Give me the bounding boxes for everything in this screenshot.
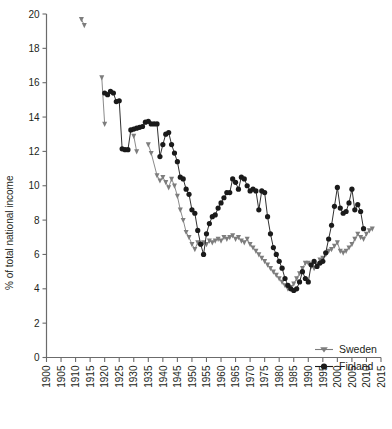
data-point: [169, 177, 174, 182]
data-point: [320, 259, 325, 264]
data-point: [157, 178, 162, 183]
data-point: [125, 147, 130, 152]
data-point: [346, 200, 351, 205]
x-tick-label: 1945: [172, 365, 183, 388]
data-point: [256, 207, 261, 212]
x-tick-label: 1980: [274, 365, 285, 388]
x-axis-ticks: [47, 358, 382, 363]
x-tick-label: 1960: [216, 365, 227, 388]
data-point: [268, 231, 273, 236]
data-point: [361, 237, 366, 242]
data-point: [274, 252, 279, 257]
data-point: [166, 185, 171, 190]
data-point: [181, 218, 186, 223]
y-tick-label: 12: [28, 146, 40, 157]
y-tick-label: 20: [28, 9, 40, 20]
data-point: [300, 269, 305, 274]
data-point: [184, 187, 189, 192]
data-point: [361, 226, 366, 231]
data-point: [297, 279, 302, 284]
data-point: [99, 75, 104, 80]
x-tick-label: 1900: [41, 365, 52, 388]
y-tick-label: 2: [34, 318, 40, 329]
data-point: [149, 151, 154, 156]
data-point: [181, 176, 186, 181]
data-point: [160, 142, 165, 147]
x-tick-label: 1955: [201, 365, 212, 388]
series-finland: [102, 89, 366, 293]
data-point: [111, 90, 116, 95]
income-share-line-chart: 02468101214161820 1900190519101915192019…: [0, 0, 392, 429]
data-point: [154, 121, 159, 126]
data-point: [216, 205, 221, 210]
data-point: [140, 124, 145, 129]
data-point: [186, 192, 191, 197]
data-point: [335, 185, 340, 190]
x-tick-label: 1990: [303, 365, 314, 388]
data-point: [207, 221, 212, 226]
data-point: [294, 286, 299, 291]
x-tick-label: 1975: [259, 365, 270, 388]
data-point: [312, 259, 317, 264]
data-point: [201, 252, 206, 257]
x-tick-label: 1935: [143, 365, 154, 388]
y-axis-tick-labels: 02468101214161820: [28, 9, 40, 364]
data-point: [169, 142, 174, 147]
legend-label-sweden: Sweden: [339, 343, 377, 355]
data-point: [146, 142, 151, 147]
data-point: [262, 190, 267, 195]
data-point: [271, 245, 276, 250]
y-tick-label: 0: [34, 352, 40, 363]
y-tick-label: 6: [34, 249, 40, 260]
data-point: [187, 235, 192, 240]
x-axis-tick-labels: 1900190519101915192019251930193519401945…: [41, 365, 387, 388]
data-point: [242, 176, 247, 181]
data-point: [233, 180, 238, 185]
x-tick-label: 1965: [230, 365, 241, 388]
data-point: [131, 134, 136, 139]
data-point: [221, 195, 226, 200]
data-point: [102, 122, 107, 127]
series-line: [102, 78, 105, 124]
y-tick-label: 4: [34, 283, 40, 294]
data-point: [352, 207, 357, 212]
data-point: [344, 209, 349, 214]
data-point: [192, 247, 197, 252]
data-point: [332, 204, 337, 209]
data-point: [219, 239, 224, 244]
data-point: [326, 236, 331, 241]
series-sweden: [79, 17, 375, 292]
data-point: [204, 231, 209, 236]
x-tick-label: 1950: [187, 365, 198, 388]
data-point: [280, 266, 285, 271]
legend-label-finland: Finland: [339, 360, 374, 372]
x-tick-label: 1915: [85, 365, 96, 388]
x-tick-label: 1925: [114, 365, 125, 388]
x-tick-label: 1910: [70, 365, 81, 388]
data-point: [236, 187, 241, 192]
data-point: [218, 200, 223, 205]
data-point: [178, 208, 183, 213]
data-point: [175, 194, 180, 199]
y-axis-title: % of total national income: [4, 175, 15, 290]
data-point: [282, 276, 287, 281]
data-point: [134, 149, 139, 154]
data-point: [198, 242, 203, 247]
x-tick-label: 2015: [376, 365, 387, 388]
data-point: [79, 17, 84, 22]
legend-item-sweden: Sweden: [315, 343, 377, 355]
data-point: [157, 154, 162, 159]
data-point: [166, 130, 171, 135]
data-point: [329, 223, 334, 228]
data-point: [323, 250, 328, 255]
data-point: [213, 212, 218, 217]
x-tick-label: 1905: [56, 365, 67, 388]
data-point: [277, 259, 282, 264]
chart-container: 02468101214161820 1900190519101915192019…: [0, 0, 392, 429]
data-point: [242, 240, 247, 245]
data-point: [195, 228, 200, 233]
data-point: [172, 184, 177, 189]
y-tick-label: 18: [28, 43, 40, 54]
y-tick-label: 16: [28, 77, 40, 88]
data-point: [338, 205, 343, 210]
